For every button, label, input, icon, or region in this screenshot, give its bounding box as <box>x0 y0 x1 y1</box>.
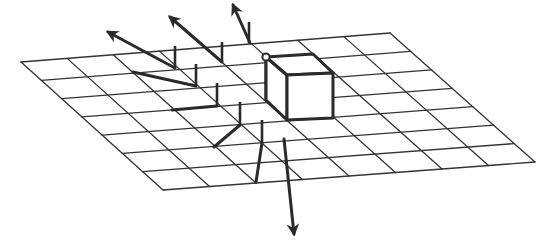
vector-v2 <box>170 17 222 62</box>
arrow-vector <box>170 17 222 62</box>
line-vector <box>133 72 196 86</box>
vector-v7 <box>256 120 262 182</box>
vector-v8 <box>284 139 294 234</box>
grid-cube-vector-diagram <box>0 0 540 249</box>
arrow-vector <box>284 139 294 234</box>
vector-v3 <box>233 5 250 43</box>
arrow-vector <box>233 5 250 43</box>
vertex-marker-circle <box>262 53 269 60</box>
vector-field-front <box>284 139 294 234</box>
cube <box>262 53 333 120</box>
arrow-vector <box>108 32 175 68</box>
line-vector <box>172 106 217 110</box>
cube-front-face <box>287 73 333 120</box>
vector-v1 <box>108 32 175 68</box>
line-vector <box>214 125 240 147</box>
